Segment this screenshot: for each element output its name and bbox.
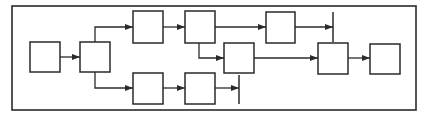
process-box-h	[224, 43, 254, 73]
connector-arrow-b-to-c	[95, 27, 133, 42]
process-box-i	[318, 43, 348, 74]
process-box-d	[133, 73, 163, 104]
process-box-j	[370, 44, 400, 74]
connector-arrow-b-to-d	[95, 72, 133, 88]
process-box-g	[266, 12, 295, 43]
process-box-e	[185, 11, 215, 43]
process-box-c	[133, 11, 163, 43]
process-box-f	[185, 73, 215, 104]
connector-arrow-e-to-h	[199, 43, 224, 58]
process-box-a	[30, 42, 60, 72]
process-box-b	[80, 42, 110, 72]
flow-diagram	[0, 0, 428, 115]
